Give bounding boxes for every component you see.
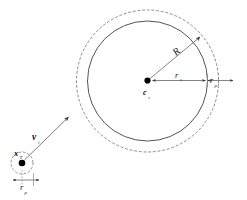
svg-text:x: x [13, 148, 19, 158]
svg-text:p: p [24, 190, 28, 195]
svg-text:T: T [19, 155, 23, 160]
svg-text:p: p [214, 83, 218, 88]
svg-text:i: i [38, 140, 40, 145]
label-velocity-vi: v i [32, 132, 40, 145]
label-particle-position-xT: x T [13, 148, 23, 160]
svg-text:r: r [20, 182, 24, 192]
label-sphere-center-cs: c s [143, 87, 150, 100]
svg-text:v: v [32, 132, 37, 142]
particle-marker [19, 160, 26, 167]
svg-text:s: s [148, 95, 150, 100]
collision-diagram-svg: R r s r p c s x T r p v i [0, 0, 247, 200]
sphere-center-marker [144, 77, 150, 83]
label-capture-radius-R: R [169, 45, 182, 58]
svg-text:r: r [210, 75, 214, 85]
svg-text:c: c [143, 87, 147, 97]
label-particle-radius-rp-right: r p [210, 75, 218, 88]
svg-text:r: r [175, 70, 179, 80]
diagram-canvas: R r s r p c s x T r p v i [0, 0, 247, 200]
svg-text:R: R [169, 45, 182, 58]
svg-text:s: s [180, 77, 182, 82]
label-particle-radius-rp-bottom: r p [20, 182, 28, 195]
